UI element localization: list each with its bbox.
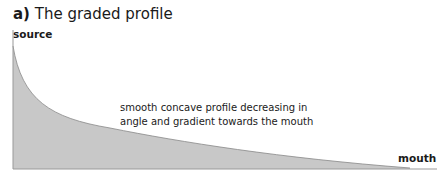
mouth-label: mouth <box>398 152 436 164</box>
profile-annotation: smooth concave profile decreasing in ang… <box>120 101 313 129</box>
annotation-line-1: smooth concave profile decreasing in <box>120 101 313 115</box>
annotation-line-2: angle and gradient towards the mouth <box>120 115 313 129</box>
graded-profile-diagram <box>0 0 445 184</box>
